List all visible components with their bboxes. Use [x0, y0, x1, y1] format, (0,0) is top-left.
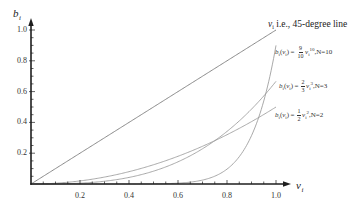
x-axis-label-sub: i [301, 186, 303, 194]
fraction-numerator: 2 [301, 79, 305, 87]
paren-close: ) [287, 112, 289, 119]
x-axis-label: vi [296, 180, 303, 193]
fraction-denominator: 2 [297, 116, 301, 123]
curve-n3 [31, 81, 276, 184]
x-tick-label: 0.4 [117, 192, 141, 200]
func-subscript: i [279, 51, 280, 58]
label-45-text: i.e., 45-degree line [276, 19, 347, 29]
x-tick-label: 0.6 [166, 192, 190, 200]
label-45-sub: i [272, 24, 274, 30]
y-axis-label: bi [13, 8, 21, 21]
x-tick-label: 0.8 [215, 192, 239, 200]
y-axis-label-sub: i [19, 14, 21, 22]
x-tick-label: 1.0 [264, 192, 288, 200]
n-value: ,N=10 [315, 49, 333, 56]
fraction-numerator: 1 [297, 108, 301, 116]
y-axis-arrow-icon [28, 18, 33, 26]
equals-sign: = [295, 83, 299, 90]
exponent: 2 [307, 109, 310, 116]
equals-sign: = [291, 49, 295, 56]
y-axis-label-var: b [13, 7, 19, 19]
n-value: ,N=2 [309, 112, 323, 119]
func-subscript: i [283, 85, 284, 92]
func-subscript: i [279, 114, 280, 121]
equals-sign: = [291, 112, 295, 119]
fraction: 12 [297, 108, 301, 122]
curve-line45 [31, 30, 276, 184]
label-n2-curve: bi(vi)=12vi2,N=2 [275, 107, 323, 123]
fraction-denominator: 3 [301, 87, 305, 94]
arg-subscript: i [285, 51, 286, 58]
label-45-degree-line: vi i.e., 45-degree line [268, 19, 347, 30]
x-tick-label: 0.2 [68, 192, 92, 200]
y-tick-label: 0.6 [0, 88, 27, 96]
y-tick-label: 0.2 [0, 149, 27, 157]
plot-area [0, 0, 363, 211]
paren-close: ) [291, 83, 293, 90]
n-value: ,N=3 [313, 83, 327, 90]
fraction: 910 [297, 45, 304, 59]
fraction-numerator: 9 [299, 45, 303, 53]
curve-n2 [31, 107, 276, 184]
y-tick-label: 1.0 [0, 26, 27, 34]
exponent: 3 [311, 80, 314, 87]
label-n10-curve: bi(vi)=910vi10,N=10 [275, 44, 332, 60]
fraction-denominator: 10 [297, 53, 304, 60]
arg-subscript: i [285, 114, 286, 121]
y-tick-label: 0.8 [0, 57, 27, 65]
curve-n10 [31, 45, 276, 184]
y-tick-label: 0.4 [0, 118, 27, 126]
exponent: 10 [310, 46, 315, 53]
paren-close: ) [287, 49, 289, 56]
label-n3-curve: bi(vi)=23vi3,N=3 [279, 78, 327, 94]
x-axis-arrow-icon [283, 181, 291, 186]
arg-subscript: i [289, 85, 290, 92]
fraction: 23 [301, 79, 305, 93]
chart-figure: 0.20.40.60.81.00.20.40.60.81.0 bi vi vi … [0, 0, 363, 211]
